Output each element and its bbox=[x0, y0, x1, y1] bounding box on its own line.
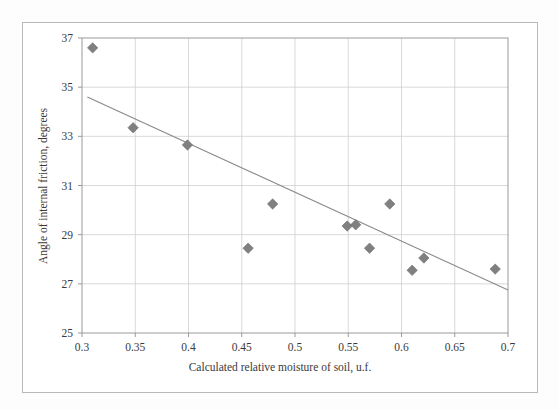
y-tick-label: 35 bbox=[62, 81, 74, 93]
data-point-marker bbox=[87, 43, 97, 53]
tick-marks-group bbox=[78, 38, 508, 337]
data-point-marker bbox=[243, 243, 253, 253]
trendline bbox=[87, 97, 508, 290]
data-point-marker bbox=[419, 253, 429, 263]
trendline-path bbox=[87, 97, 508, 290]
x-tick-label: 0.65 bbox=[445, 341, 465, 353]
x-tick-label: 0.45 bbox=[232, 341, 252, 353]
x-tick-label: 0.4 bbox=[181, 341, 196, 353]
x-tick-label: 0.6 bbox=[394, 341, 409, 353]
x-tick-label: 0.5 bbox=[288, 341, 303, 353]
x-tick-label: 0.7 bbox=[501, 341, 516, 353]
data-point-marker bbox=[385, 199, 395, 209]
y-axis-tick-labels: 25272931333537 bbox=[62, 32, 74, 339]
x-axis-tick-labels: 0.30.350.40.450.50.550.60.650.7 bbox=[75, 341, 516, 353]
x-tick-label: 0.55 bbox=[338, 341, 358, 353]
y-tick-label: 25 bbox=[62, 327, 74, 339]
data-point-marker bbox=[490, 264, 500, 274]
y-tick-label: 31 bbox=[62, 180, 74, 192]
data-points-group bbox=[87, 43, 500, 276]
data-point-marker bbox=[407, 265, 417, 275]
y-tick-label: 33 bbox=[62, 130, 74, 142]
figure-container: 0.30.350.40.450.50.550.60.650.7 25272931… bbox=[0, 0, 559, 410]
scatter-chart: 0.30.350.40.450.50.550.60.650.7 25272931… bbox=[0, 0, 559, 410]
y-axis-title: Angle of internal friction, degrees bbox=[37, 107, 50, 264]
y-tick-label: 29 bbox=[62, 229, 74, 241]
data-point-marker bbox=[342, 221, 352, 231]
y-tick-label: 27 bbox=[62, 278, 74, 290]
y-tick-label: 37 bbox=[62, 32, 74, 44]
x-tick-label: 0.3 bbox=[75, 341, 90, 353]
data-point-marker bbox=[267, 199, 277, 209]
x-axis-title: Calculated relative moisture of soil, u.… bbox=[189, 361, 372, 374]
gridlines-group bbox=[82, 38, 508, 333]
x-tick-label: 0.35 bbox=[125, 341, 145, 353]
data-point-marker bbox=[364, 243, 374, 253]
data-point-marker bbox=[128, 123, 138, 133]
